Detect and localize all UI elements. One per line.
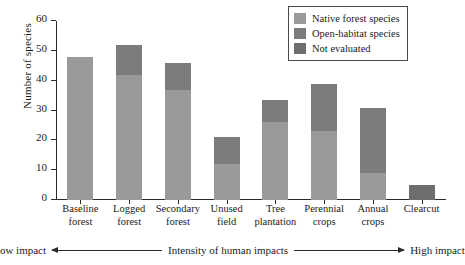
- x-axis-label-line: Tree: [251, 203, 300, 216]
- x-axis-label: Treeplantation: [251, 203, 300, 228]
- y-axis-tick-label: 0: [42, 191, 48, 203]
- low-impact-label: Low impact: [0, 244, 46, 256]
- legend-label: Native forest species: [312, 13, 399, 24]
- chart-legend: Native forest speciesOpen-habitat specie…: [288, 6, 408, 61]
- bar-segment: [165, 63, 191, 90]
- bar-tree-plantation[interactable]: [262, 100, 288, 200]
- bar-unused-field[interactable]: [214, 137, 240, 200]
- y-axis-tick-label: 30: [36, 102, 47, 114]
- bar-segment: [262, 100, 288, 122]
- bar-segment: [214, 137, 240, 164]
- bar-clearcut[interactable]: [409, 185, 435, 200]
- x-axis-label: Clearcut: [397, 203, 446, 216]
- x-axis-label: Secondaryforest: [154, 203, 203, 228]
- x-axis-label: Perennialcrops: [300, 203, 349, 228]
- x-axis-label-line: Unused: [202, 203, 251, 216]
- legend-item[interactable]: Native forest species: [294, 11, 400, 26]
- bar-segment: [360, 108, 386, 174]
- x-axis-label-line: field: [202, 216, 251, 229]
- x-axis-label: Baselineforest: [56, 203, 105, 228]
- bar-segment: [116, 75, 142, 200]
- impact-axis-title: Intensity of human impacts: [168, 244, 288, 256]
- legend-label: Not evaluated: [312, 43, 371, 54]
- legend-color-swatch: [294, 43, 306, 54]
- left-arrow-icon: [52, 250, 162, 251]
- x-axis-label-line: crops: [300, 216, 349, 229]
- x-axis-label-line: Baseline: [56, 203, 105, 216]
- bar-segment: [116, 45, 142, 75]
- legend-color-swatch: [294, 13, 306, 24]
- y-axis-tick-label: 20: [36, 131, 47, 143]
- y-axis-tick-label: 50: [36, 42, 47, 54]
- x-axis-label-line: Clearcut: [397, 203, 446, 216]
- x-axis-label-line: crops: [349, 216, 398, 229]
- y-axis-tick-label: 10: [36, 161, 47, 173]
- bar-segment: [214, 164, 240, 200]
- x-axis-label-line: Annual: [349, 203, 398, 216]
- x-axis-label-line: Logged: [105, 203, 154, 216]
- bar-baseline-forest[interactable]: [67, 57, 93, 200]
- right-arrow-icon: [294, 250, 404, 251]
- x-axis-label: Annualcrops: [349, 203, 398, 228]
- y-axis-tick-label: 60: [36, 12, 47, 24]
- x-axis-label-line: forest: [154, 216, 203, 229]
- bar-segment: [311, 131, 337, 200]
- bar-segment: [165, 90, 191, 200]
- legend-color-swatch: [294, 28, 306, 39]
- x-axis-label: Loggedforest: [105, 203, 154, 228]
- impact-gradient-annotation: Low impact Intensity of human impacts Hi…: [0, 240, 458, 260]
- bar-segment: [360, 173, 386, 200]
- y-axis-title: Number of species: [21, 0, 33, 141]
- x-axis-label-line: plantation: [251, 216, 300, 229]
- legend-label: Open-habitat species: [312, 28, 400, 39]
- x-axis-label-line: Perennial: [300, 203, 349, 216]
- bar-segment: [409, 185, 435, 200]
- y-axis-tick-label: 40: [36, 72, 47, 84]
- bar-segment: [262, 122, 288, 200]
- legend-item[interactable]: Not evaluated: [294, 41, 400, 56]
- bar-logged-forest[interactable]: [116, 45, 142, 200]
- bar-segment: [311, 84, 337, 132]
- bar-secondary-forest[interactable]: [165, 63, 191, 200]
- x-axis-labels: BaselineforestLoggedforestSecondaryfores…: [56, 203, 446, 237]
- x-axis-label-line: forest: [105, 216, 154, 229]
- legend-item[interactable]: Open-habitat species: [294, 26, 400, 41]
- x-axis-label-line: Secondary: [154, 203, 203, 216]
- high-impact-label: High impact: [410, 244, 465, 256]
- x-axis-label-line: forest: [56, 216, 105, 229]
- x-axis-label: Unusedfield: [202, 203, 251, 228]
- bar-perennial-crops[interactable]: [311, 84, 337, 200]
- bar-segment: [67, 57, 93, 200]
- bar-annual-crops[interactable]: [360, 108, 386, 200]
